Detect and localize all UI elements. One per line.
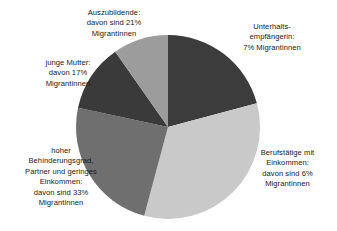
- pie-chart-figure: Auszubildende: davon sind 21% Migrantinn…: [0, 0, 337, 231]
- pie-label-junge-mutter: junge Mutter: davon 17% Migrantinnen: [12, 58, 124, 89]
- pie-label-unterhaltsempfaengerin: Unterhalts- empfängerin: 7% Migrantinnen: [214, 22, 330, 53]
- pie-label-hoher-behinderungsgrad: hoher Behinderungsgrad, Partner und geri…: [0, 146, 122, 208]
- pie-label-auszubildende: Auszubildende: davon sind 21% Migrantinn…: [55, 8, 173, 39]
- pie-label-berufstaetige-mit-einkommen: Berufstätige mit Einkommen: davon sind 6…: [238, 148, 337, 190]
